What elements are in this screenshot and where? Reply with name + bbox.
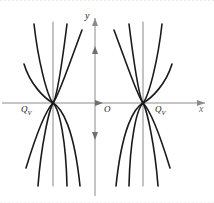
left-node-point xyxy=(52,102,55,105)
right-node-label: QV xyxy=(155,105,165,116)
left-node-curve-family xyxy=(24,22,82,186)
x-axis-origin-arrowhead xyxy=(95,100,103,106)
right-curve-inner-left xyxy=(129,24,158,186)
left-curve-inner-right xyxy=(38,24,67,186)
left-node-label-subscript: V xyxy=(28,109,32,116)
y-axis-arrowhead-up xyxy=(92,18,98,26)
right-node-label-subscript: V xyxy=(162,109,166,116)
y-axis-label: y xyxy=(85,11,89,21)
right-node-point xyxy=(142,102,145,105)
right-node-curve-family xyxy=(114,22,172,186)
left-curve-outer-left xyxy=(24,64,80,186)
origin-label: O xyxy=(104,105,111,114)
right-curve-outer-right xyxy=(116,64,172,186)
x-axis-label: x xyxy=(199,104,203,114)
figure-container: y x O QV QV xyxy=(0,0,214,203)
left-node-label: QV xyxy=(21,105,31,116)
y-axis-arrowhead-mid xyxy=(92,46,98,54)
y-axis-arrowhead-down xyxy=(92,132,98,140)
phase-portrait-plot xyxy=(0,0,214,203)
